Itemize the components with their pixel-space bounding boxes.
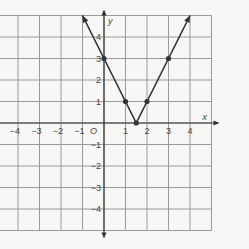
origin-label: O — [90, 126, 97, 136]
axes — [0, 10, 220, 239]
y-tick-label: 1 — [96, 97, 101, 107]
y-tick-label: −3 — [91, 183, 101, 193]
y-tick-label: −2 — [91, 161, 101, 171]
x-tick-label: 2 — [144, 126, 149, 136]
y-tick-label: 2 — [96, 75, 101, 85]
data-point — [144, 99, 149, 104]
coordinate-graph: −4−3−2−112344321−1−2−3−4Oxy — [0, 0, 249, 249]
x-tick-label: −1 — [74, 126, 84, 136]
x-tick-label: −2 — [53, 126, 63, 136]
y-axis-arrow-icon — [102, 10, 107, 16]
y-axis-label: y — [107, 16, 113, 26]
y-tick-label: −1 — [91, 140, 101, 150]
y-tick-label: −4 — [91, 204, 101, 214]
x-tick-label: −3 — [31, 126, 41, 136]
x-axis-label: x — [202, 112, 208, 122]
x-axis-arrow-icon — [214, 121, 220, 126]
data-point — [101, 56, 106, 61]
x-tick-label: 3 — [166, 126, 171, 136]
x-tick-label: 1 — [123, 126, 128, 136]
y-tick-label: 3 — [96, 54, 101, 64]
data-point — [123, 99, 128, 104]
x-tick-label: −4 — [10, 126, 20, 136]
x-tick-label: 4 — [187, 126, 192, 136]
y-axis-arrow-down-icon — [102, 233, 107, 239]
data-point — [166, 56, 171, 61]
y-tick-label: 4 — [96, 32, 101, 42]
data-point — [134, 120, 139, 125]
